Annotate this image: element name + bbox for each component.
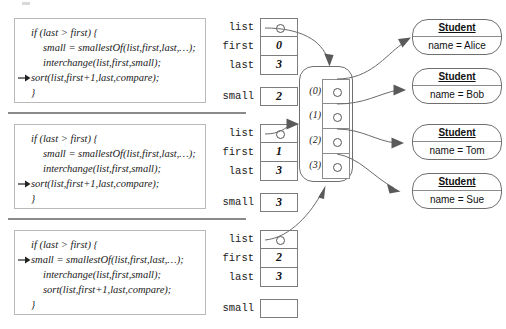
- array-slot-index: (2): [302, 134, 321, 145]
- variable-name: first: [208, 249, 260, 268]
- variable-value: 1: [260, 143, 298, 162]
- pointer-dot-icon: [333, 113, 342, 122]
- code-line-active: sort(list,first+1,last,compare);: [17, 176, 201, 191]
- execution-pointer-icon: [18, 179, 31, 188]
- student-class-title: Student: [413, 125, 501, 142]
- code-frame-2: if (last > first) { small = smallestOf(l…: [14, 230, 206, 315]
- array-slot-2: (2): [322, 129, 350, 154]
- variable-name: last: [208, 56, 260, 75]
- student-name-field: name = Tom: [413, 142, 501, 160]
- variable-name: small: [208, 193, 260, 212]
- variable-name: small: [208, 87, 260, 106]
- code-line: }: [17, 85, 201, 100]
- code-text: if (last > first) {: [31, 27, 98, 38]
- variable-table-2: list first 2 last 3 small: [208, 230, 304, 318]
- variable-row-small: small 3: [208, 193, 304, 212]
- code-line: interchange(list,first,small);: [17, 55, 201, 70]
- student-object-0: Student name = Alice: [412, 19, 502, 55]
- variable-row-small: small 2: [208, 87, 304, 106]
- variable-name: last: [208, 268, 260, 287]
- code-text: interchange(list,first,small);: [43, 269, 161, 280]
- variable-row-list: list: [208, 124, 304, 143]
- variable-row-last: last 3: [208, 56, 304, 75]
- student-object-1: Student name = Bob: [412, 68, 502, 104]
- code-line: if (last > first) {: [17, 131, 201, 146]
- student-type-label: Student: [438, 127, 475, 138]
- variable-value: 2: [260, 249, 298, 268]
- variable-row-first: first 2: [208, 249, 304, 268]
- code-line: if (last > first) {: [17, 25, 201, 40]
- variable-value: 3: [260, 268, 298, 287]
- variable-value: 3: [260, 162, 298, 181]
- array-slot-1: (1): [322, 104, 350, 129]
- code-text: if (last > first) {: [31, 239, 98, 250]
- student-name-field: name = Alice: [413, 37, 501, 55]
- variable-row-list: list: [208, 18, 304, 37]
- array-slot-index: (0): [302, 85, 321, 96]
- variable-name: first: [208, 143, 260, 162]
- code-line: if (last > first) {: [17, 237, 201, 252]
- variable-value: 3: [260, 56, 298, 75]
- student-name-field: name = Sue: [413, 191, 501, 209]
- pointer-dot-icon: [333, 138, 342, 147]
- variable-spacer: [208, 181, 304, 193]
- student-type-label: Student: [438, 22, 475, 33]
- code-text: }: [31, 299, 35, 310]
- variable-value: 3: [260, 193, 298, 212]
- frame-divider-2: [8, 218, 246, 220]
- code-text: sort(list,first+1,last,compare);: [31, 72, 159, 83]
- code-line: interchange(list,first,small);: [17, 267, 201, 282]
- student-object-2: Student name = Tom: [412, 124, 502, 160]
- array-slot-0: (0): [322, 79, 350, 104]
- variable-value: [260, 299, 298, 318]
- variable-table-0: list first 0 last 3 small 2: [208, 18, 304, 106]
- variable-row-first: first 1: [208, 143, 304, 162]
- diagram-canvas: if (last > first) { small = smallestOf(l…: [0, 0, 506, 329]
- variable-value: 0: [260, 37, 298, 56]
- pointer-dot-icon: [333, 88, 342, 97]
- student-type-label: Student: [438, 176, 475, 187]
- student-name-field: name = Bob: [413, 86, 501, 104]
- student-array-object: (0) (1) (2) (3): [299, 66, 353, 182]
- code-text: sort(list,first+1,last,compare);: [43, 284, 171, 295]
- variable-name: first: [208, 37, 260, 56]
- variable-row-first: first 0: [208, 37, 304, 56]
- variable-row-list: list: [208, 230, 304, 249]
- variable-name: last: [208, 162, 260, 181]
- code-text: }: [31, 87, 35, 98]
- variable-row-last: last 3: [208, 162, 304, 181]
- student-class-title: Student: [413, 174, 501, 191]
- code-line: }: [17, 191, 201, 206]
- variable-spacer: [208, 75, 304, 87]
- code-text: interchange(list,first,small);: [43, 57, 161, 68]
- execution-pointer-icon: [18, 255, 31, 264]
- variable-spacer: [208, 287, 304, 299]
- code-text: }: [31, 193, 35, 204]
- variable-table-1: list first 1 last 3 small 3: [208, 124, 304, 212]
- array-slot-3: (3): [322, 154, 350, 179]
- scan-artifact: [22, 2, 30, 5]
- code-text: small = smallestOf(list,first,last,…);: [31, 254, 184, 265]
- pointer-dot-icon: [333, 163, 342, 172]
- array-slot-index: (1): [302, 109, 321, 120]
- code-text: sort(list,first+1,last,compare);: [31, 178, 159, 189]
- pointer-dot-icon: [276, 24, 285, 33]
- frame-divider-1: [8, 112, 246, 114]
- code-line: sort(list,first+1,last,compare);: [17, 282, 201, 297]
- code-text: interchange(list,first,small);: [43, 163, 161, 174]
- array-slot-index: (3): [302, 159, 321, 170]
- variable-value-pointer: [260, 124, 298, 143]
- student-object-3: Student name = Sue: [412, 173, 502, 209]
- code-text: small = smallestOf(list,first,last,…);: [43, 42, 196, 53]
- variable-name: list: [208, 230, 260, 249]
- code-text: if (last > first) {: [31, 133, 98, 144]
- variable-row-last: last 3: [208, 268, 304, 287]
- code-frame-0: if (last > first) { small = smallestOf(l…: [14, 18, 206, 103]
- variable-row-small: small: [208, 299, 304, 318]
- variable-value-pointer: [260, 18, 298, 37]
- code-text: small = smallestOf(list,first,last,…);: [43, 148, 196, 159]
- student-type-label: Student: [438, 71, 475, 82]
- code-frame-1: if (last > first) { small = smallestOf(l…: [14, 124, 206, 209]
- student-class-title: Student: [413, 20, 501, 37]
- code-line-active: sort(list,first+1,last,compare);: [17, 70, 201, 85]
